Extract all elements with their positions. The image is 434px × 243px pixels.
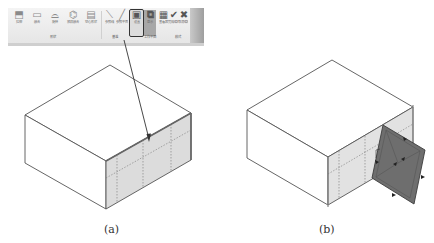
caption-b: (b): [319, 223, 335, 236]
diagram-canvas: [0, 0, 434, 243]
box-a: [25, 65, 191, 209]
caption-a: (a): [104, 223, 119, 236]
